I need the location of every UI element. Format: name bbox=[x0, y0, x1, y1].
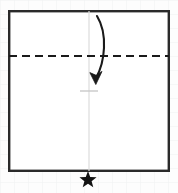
origami-diagram bbox=[0, 0, 178, 193]
diagram-canvas bbox=[0, 0, 178, 193]
